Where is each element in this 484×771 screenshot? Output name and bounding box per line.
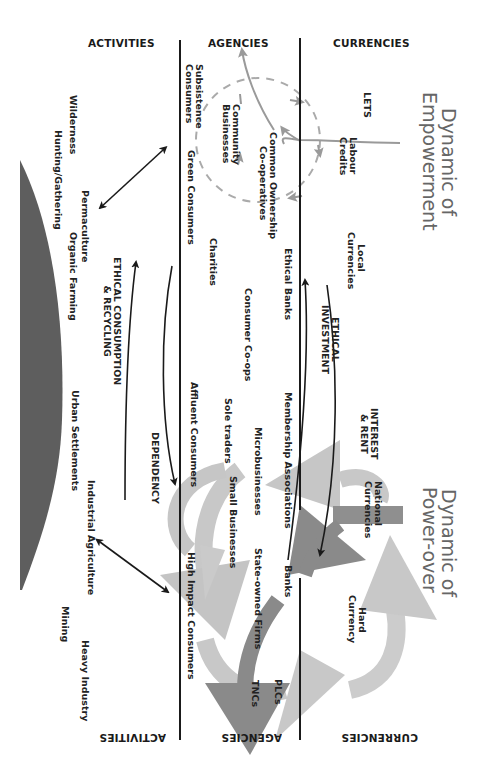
dynamic-power-over-line2: Power-over <box>420 487 439 597</box>
label-small-businesses: Small Businesses <box>228 476 238 569</box>
label-organic-farming: Organic Farming <box>68 232 78 321</box>
label-labour-credits-line1: Labour <box>348 137 358 175</box>
diagram-canvas: ACTIVITIES AGENCIES CURRENCIES ACTIVITIE… <box>0 0 484 771</box>
label-dependency: DEPENDENCY <box>150 432 160 504</box>
label-lets: LETS <box>362 92 372 118</box>
label-hard-currency: Hard Currency <box>347 595 367 643</box>
label-ethical-investment-line1: ETHICAL <box>330 305 340 374</box>
label-common-ownership: Common Ownership Co-operatives <box>258 132 278 239</box>
footer-activities: ACTIVITIES <box>99 732 166 743</box>
label-state-owned-firms: State-owned Firms <box>253 548 263 649</box>
label-ethical-investment-line2: INVESTMENT <box>320 305 330 374</box>
label-plcs: PLCs <box>273 679 283 705</box>
label-wilderness: Wilderness <box>68 95 78 154</box>
header-currencies: CURRENCIES <box>333 38 410 49</box>
label-interest-rent: INTEREST & RENT <box>359 408 379 460</box>
dynamic-empowerment-line2: Empowerment <box>420 92 439 231</box>
label-membership-associations: Membership Associations <box>283 392 293 529</box>
label-hard-currency-line1: Hard <box>357 595 367 643</box>
label-local-currencies: Local Currencies <box>346 232 366 289</box>
label-ethical-consumption: ETHICAL CONSUMPTION & RECYCLING <box>102 257 122 385</box>
label-subsistence-line1: Subsistence <box>194 64 204 129</box>
label-labour-credits-line2: Credits <box>338 137 348 175</box>
label-sole-traders: Sole traders <box>223 398 233 464</box>
label-microbusinesses: Microbusinesses <box>253 427 263 516</box>
label-interest-rent-line1: INTEREST <box>369 408 379 460</box>
label-hunting-gathering: Hunting/Gathering <box>53 130 63 230</box>
label-tncs: TNCs <box>250 680 260 707</box>
label-consumer-coops: Consumer Co-ops <box>243 288 253 381</box>
label-labour-credits: Labour Credits <box>338 137 358 175</box>
label-permaculture: Permaculture <box>80 190 90 262</box>
dynamic-empowerment-title: Dynamic of Empowerment <box>420 92 458 231</box>
label-ethical-consumption-line2: & RECYCLING <box>102 257 112 385</box>
label-community-businesses: Community Businesses <box>221 104 241 165</box>
label-local-currencies-line1: Local <box>356 232 366 289</box>
label-banks: Banks <box>283 565 293 597</box>
label-green-consumers: Green Consumers <box>186 150 196 245</box>
label-urban-settlements: Urban Settlements <box>70 390 80 491</box>
label-ethical-consumption-line1: ETHICAL CONSUMPTION <box>112 257 122 385</box>
label-industrial-agriculture: Industrial Agriculture <box>86 480 96 595</box>
footer-currencies: CURRENCIES <box>341 732 418 743</box>
label-hard-currency-line2: Currency <box>347 595 357 643</box>
label-subsistence-line2: Consumers <box>184 64 194 129</box>
label-ethical-banks: Ethical Banks <box>283 248 293 320</box>
label-national-currencies-line2: Currencies <box>363 481 373 538</box>
label-community-line1: Community <box>231 104 241 165</box>
label-mining: Mining <box>60 606 70 642</box>
dynamic-empowerment-line1: Dynamic of <box>439 92 458 231</box>
label-common-ownership-line1: Common Ownership <box>268 132 278 239</box>
label-local-currencies-line2: Currencies <box>346 232 356 289</box>
dynamic-power-over-line1: Dynamic of <box>439 487 458 597</box>
dynamic-power-over-title: Dynamic of Power-over <box>420 487 458 597</box>
label-high-impact-consumers: High Impact Consumers <box>186 552 196 680</box>
label-charities: Charities <box>208 238 218 286</box>
label-national-currencies-line1: National <box>373 481 383 538</box>
label-ethical-investment: ETHICAL INVESTMENT <box>320 305 340 374</box>
label-subsistence-consumers: Subsistence Consumers <box>184 64 204 129</box>
footer-agencies: AGENCIES <box>221 732 282 743</box>
label-community-line2: Businesses <box>221 104 231 165</box>
header-activities: ACTIVITIES <box>88 38 155 49</box>
label-affluent-consumers: Affluent Consumers <box>189 382 199 487</box>
header-agencies: AGENCIES <box>208 38 269 49</box>
label-national-currencies: National Currencies <box>363 481 383 538</box>
label-heavy-industry: Heavy Industry <box>80 640 90 721</box>
label-interest-rent-line2: & RENT <box>359 408 369 460</box>
label-common-ownership-line2: Co-operatives <box>258 132 268 239</box>
power-over-cycle-arrows <box>160 440 437 755</box>
